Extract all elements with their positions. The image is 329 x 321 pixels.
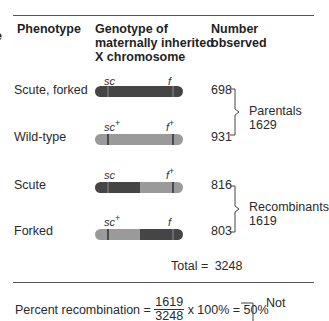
chromosome-scute-forked bbox=[95, 86, 183, 97]
allele-label-f-plus: f+ bbox=[166, 166, 174, 181]
chromosome-forked bbox=[95, 229, 183, 240]
recombinants-total: 1619 bbox=[249, 214, 329, 228]
formula-fraction: 1619 3248 bbox=[154, 296, 184, 321]
parentals-label: Parentals bbox=[249, 104, 302, 118]
phenotype-scute-forked: Scute, forked bbox=[14, 83, 88, 97]
allele-label-sc-plus: sc+ bbox=[104, 213, 120, 228]
percent-recombination-formula: Percent recombination = 1619 3248 x 100%… bbox=[15, 296, 269, 321]
phenotype-wild-type: Wild-type bbox=[14, 130, 66, 144]
recombinants-label: Recombinants bbox=[249, 200, 329, 214]
total-label: Total = bbox=[171, 259, 208, 273]
count-wild-type: 931 bbox=[211, 130, 232, 144]
fraction-numerator: 1619 bbox=[154, 296, 184, 310]
f-locus-band bbox=[172, 134, 174, 145]
recombinants-bracket bbox=[230, 185, 246, 233]
chromosome-segment-mutant bbox=[95, 182, 140, 193]
f-locus-band bbox=[172, 182, 174, 193]
phenotype-forked: Forked bbox=[14, 224, 53, 238]
recombinants-group: Recombinants 1619 bbox=[249, 200, 329, 228]
header-genotype-line1: Genotype of bbox=[95, 22, 214, 36]
sc-locus-band bbox=[107, 134, 109, 145]
chromosome-segment-wild bbox=[140, 182, 183, 193]
header-number-line1: Number bbox=[211, 22, 267, 36]
header-genotype-line3: X chromosome bbox=[95, 50, 214, 64]
f-locus-band bbox=[172, 229, 174, 240]
total-row: Total = 3248 bbox=[171, 259, 242, 273]
formula-label: Percent recombination = bbox=[15, 303, 151, 317]
allele-label-sc: sc bbox=[104, 166, 115, 181]
header-number-line2: observed bbox=[211, 36, 267, 50]
chromosome-wild-type bbox=[95, 134, 183, 145]
sc-locus-band bbox=[107, 86, 109, 97]
chromosome-scute bbox=[95, 182, 183, 193]
f-locus-band bbox=[172, 86, 174, 97]
sc-locus-band bbox=[107, 182, 109, 193]
allele-label-sc: sc bbox=[104, 72, 115, 87]
parentals-total: 1629 bbox=[249, 118, 302, 132]
not-linked-bracket bbox=[241, 302, 261, 321]
top-rule bbox=[13, 15, 314, 16]
parentals-group: Parentals 1629 bbox=[249, 104, 302, 132]
header-genotype-line2: maternally inherited bbox=[95, 36, 214, 50]
clipped-text-fragment: e bbox=[0, 29, 2, 43]
chromosome-segment-wild bbox=[95, 229, 140, 240]
count-scute: 816 bbox=[211, 178, 232, 192]
allele-label-f: f bbox=[168, 213, 171, 228]
count-scute-forked: 698 bbox=[211, 83, 232, 97]
header-genotype: Genotype of maternally inherited X chrom… bbox=[95, 22, 214, 64]
parentals-bracket bbox=[230, 88, 246, 136]
allele-label-f: f bbox=[168, 72, 171, 87]
allele-label-f-plus: f+ bbox=[166, 118, 174, 133]
formula-note: Not bbox=[266, 296, 285, 310]
divider-rule bbox=[13, 282, 314, 283]
fraction-denominator: 3248 bbox=[154, 310, 184, 321]
chromosome-segment-mutant bbox=[140, 229, 183, 240]
total-value: 3248 bbox=[215, 259, 243, 273]
allele-label-sc-plus: sc+ bbox=[104, 118, 120, 133]
count-forked: 803 bbox=[211, 224, 232, 238]
header-number: Number observed bbox=[211, 22, 267, 50]
sc-locus-band bbox=[107, 229, 109, 240]
phenotype-scute: Scute bbox=[14, 178, 46, 192]
header-phenotype: Phenotype bbox=[17, 22, 81, 36]
